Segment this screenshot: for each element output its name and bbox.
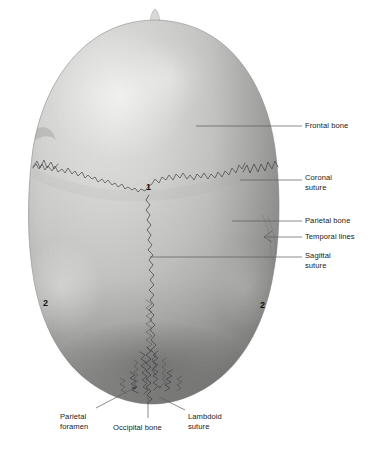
label-coronal-suture: Coronalsuture [305,173,332,192]
label-sagittal-suture: Sagittalsuture [305,251,331,270]
label-parietal-bone: Parietal bone [305,216,350,226]
parietal-foramen-opening-right [159,386,162,388]
label-coronal-suture-line-1: Coronal [305,173,332,183]
label-sagittal-suture-line-2: suture [305,261,331,271]
label-parietal-foramen-line-2: foramen [60,422,88,432]
marker-2-right: 2 [260,301,265,310]
label-frontal-bone: Frontal bone [305,121,348,131]
anatomical-figure: Frontal boneCoronalsutureParietal boneTe… [0,0,384,449]
marker-1: 1 [146,183,151,192]
label-occipital-bone-line-1: Occipital bone [113,423,162,433]
label-coronal-suture-line-2: suture [305,183,332,193]
label-parietal-bone-line-1: Parietal bone [305,216,350,226]
label-sagittal-suture-line-1: Sagittal [305,251,331,261]
label-lambdoid-suture: Lambdoidsuture [188,412,222,431]
label-parietal-foramen-line-1: Parietal [60,412,88,422]
label-frontal-bone-line-1: Frontal bone [305,121,348,131]
label-temporal-lines-line-1: Temporal lines [305,232,355,242]
label-lambdoid-suture-line-1: Lambdoid [188,412,222,422]
marker-2-left: 2 [43,299,48,308]
label-temporal-lines: Temporal lines [305,232,355,242]
label-lambdoid-suture-line-2: suture [188,422,222,432]
label-parietal-foramen: Parietalforamen [60,412,88,431]
label-occipital-bone: Occipital bone [113,423,162,433]
